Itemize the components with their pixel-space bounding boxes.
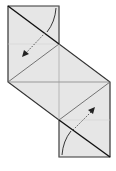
- origami-diagram: [0, 0, 116, 171]
